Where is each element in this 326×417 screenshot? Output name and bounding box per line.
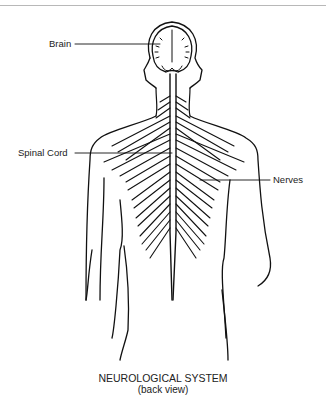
label-spinal-cord: Spinal Cord xyxy=(18,148,68,158)
leader-lines xyxy=(75,44,270,180)
label-nerves: Nerves xyxy=(273,175,303,185)
body-illustration xyxy=(0,0,326,417)
nerves-left xyxy=(104,96,170,258)
nerves-right xyxy=(176,96,244,258)
neck-outline xyxy=(156,88,190,116)
spinal-cord-drawing xyxy=(170,74,176,300)
diagram-title: NEUROLOGICAL SYSTEM xyxy=(0,373,326,384)
brain-drawing xyxy=(155,30,189,71)
diagram-subtitle: (back view) xyxy=(0,385,326,395)
label-brain: Brain xyxy=(49,39,71,49)
head-outline xyxy=(144,22,202,88)
